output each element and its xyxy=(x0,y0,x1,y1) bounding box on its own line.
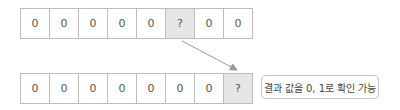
bottom-cell-1: 0 xyxy=(50,74,79,103)
bottom-cell-6: 0 xyxy=(195,74,224,103)
result-annotation-label: 결과 값을 0, 1로 확인 가능 xyxy=(261,75,379,99)
bottom-cell-4: 0 xyxy=(137,74,166,103)
bottom-cell-5: 0 xyxy=(166,74,195,103)
bottom-cell-2: 0 xyxy=(79,74,108,103)
bottom-bit-row: 0 0 0 0 0 0 0 ? xyxy=(20,73,253,104)
bottom-cell-0: 0 xyxy=(21,74,50,103)
bottom-cell-3: 0 xyxy=(108,74,137,103)
bottom-cell-7-unknown: ? xyxy=(224,74,253,103)
